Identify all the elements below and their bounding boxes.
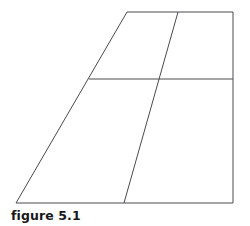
trapezoid-outline bbox=[16, 12, 233, 203]
figure-caption: figure 5.1 bbox=[11, 209, 81, 223]
figure-page: figure 5.1 bbox=[0, 0, 250, 226]
figure-diagram bbox=[0, 0, 250, 226]
slanted-divider-line bbox=[124, 12, 178, 203]
